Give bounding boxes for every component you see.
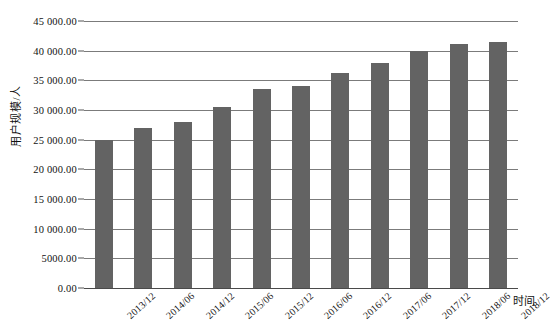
y-axis-tick-label: 15 000.00 [33,194,77,205]
bar [410,51,428,288]
bar [489,42,507,288]
x-axis-tick-label: 2017/06 [401,290,434,321]
y-axis-tick-label: 20 000.00 [33,164,77,175]
y-axis-title: 用户规模/人 [10,56,22,176]
x-axis-tick-label: 2015/12 [282,290,315,321]
bar [292,86,310,288]
bar [253,89,271,288]
bar [95,140,113,288]
x-axis-title: 时间 [513,292,535,308]
y-axis-tick-label: 35 000.00 [33,75,77,86]
y-axis-tick-label: 10 000.00 [33,223,77,234]
plot-area: 0.005000.0010 000.0015 000.0020 000.0025… [84,21,518,288]
y-axis-tick-label: 25 000.00 [33,134,77,145]
bar [213,107,231,288]
bar [371,63,389,288]
x-axis-tick-label: 2016/12 [361,290,394,321]
bar [174,122,192,288]
y-axis-tick-label: 30 000.00 [33,105,77,116]
x-axis-tick-label: 2018/06 [480,290,513,321]
y-axis-tick-label: 5000.00 [41,253,77,264]
bar [331,73,349,288]
x-axis-tick-label: 2016/06 [322,290,355,321]
bar [134,128,152,288]
x-axis-tick-label: 2017/12 [440,290,473,321]
x-axis-tick-label: 2013/12 [124,290,157,321]
bar-series [84,21,518,288]
y-axis-tick-label: 40 000.00 [33,45,77,56]
gridline [84,288,518,289]
x-axis-tick-label: 2014/12 [203,290,236,321]
y-axis-tick-label: 0.00 [58,283,77,294]
x-axis-tick-labels: 2013/122014/062014/122015/062015/122016/… [84,290,518,333]
bar [450,44,468,288]
x-axis-tick-label: 2015/06 [243,290,276,321]
y-axis-tick-label: 45 000.00 [33,16,77,27]
x-axis-tick-label: 2014/06 [164,290,197,321]
